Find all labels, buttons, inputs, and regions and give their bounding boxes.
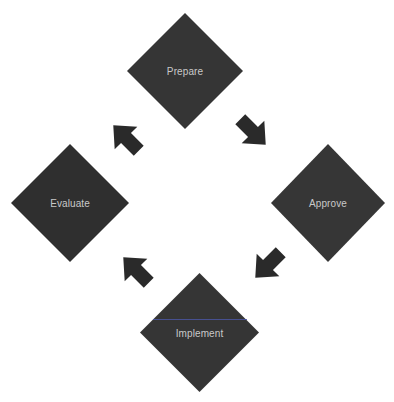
node-implement: Implement <box>140 273 259 392</box>
node-approve: Approve <box>271 144 385 262</box>
arrow-up-right-icon <box>106 118 146 158</box>
node-prepare: Prepare <box>127 13 243 129</box>
node-label-approve: Approve <box>271 144 385 262</box>
arrow-down-right-icon <box>233 112 273 152</box>
node-label-prepare: Prepare <box>127 13 243 129</box>
node-label-evaluate: Evaluate <box>11 144 129 262</box>
scan-artifact-line <box>153 319 247 320</box>
arrow-up-left-icon <box>116 250 156 290</box>
arrow-down-left-icon <box>248 245 288 285</box>
node-label-implement: Implement <box>140 273 259 392</box>
node-evaluate: Evaluate <box>11 144 129 262</box>
